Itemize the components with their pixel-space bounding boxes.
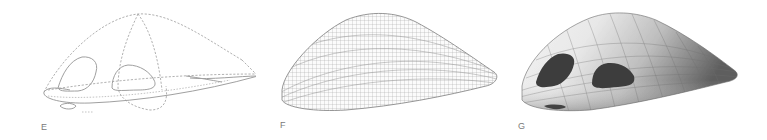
panel-label-f: F bbox=[280, 120, 286, 130]
panel-g: G bbox=[506, 0, 767, 140]
panel-f: F bbox=[256, 0, 506, 140]
shaded-render-drawing bbox=[506, 0, 767, 140]
panel-label-g: G bbox=[518, 121, 526, 131]
construction-curves-drawing bbox=[0, 0, 256, 140]
wireframe-mesh-drawing bbox=[256, 0, 506, 140]
panel-label-e: E bbox=[41, 122, 48, 132]
panel-e: E bbox=[0, 0, 256, 140]
